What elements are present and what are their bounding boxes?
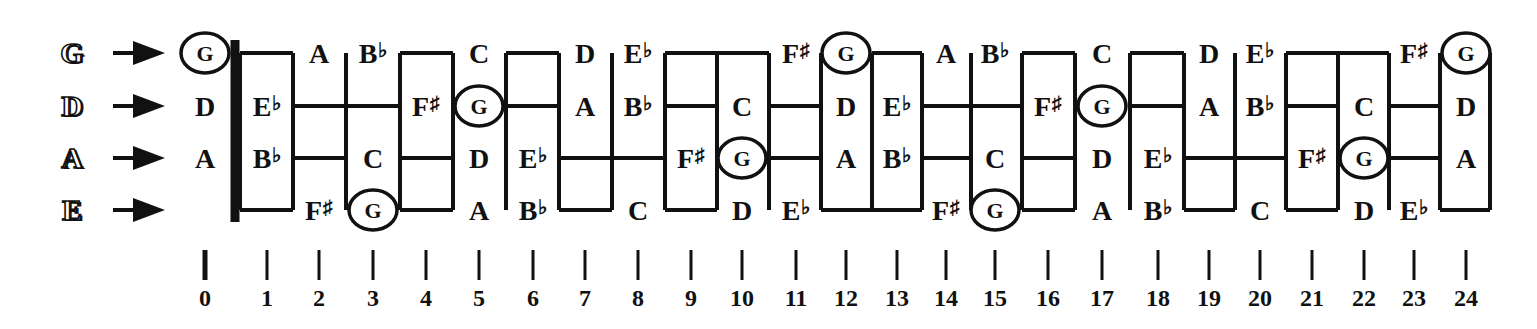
note-G-fret-17: C bbox=[1092, 40, 1112, 68]
fret-number-10: 10 bbox=[730, 286, 754, 310]
fret-number-13: 13 bbox=[885, 286, 909, 310]
note-E-fret-14: F♯ bbox=[932, 197, 960, 225]
note-E-fret-11: E♭ bbox=[782, 197, 811, 225]
note-D-fret-19: A bbox=[1199, 93, 1219, 121]
note-A-fret-10: G bbox=[733, 148, 750, 170]
fret-number-9: 9 bbox=[685, 286, 697, 310]
fret-number-3: 3 bbox=[367, 286, 379, 310]
accidental-symbol: ♭ bbox=[801, 196, 810, 218]
accidental-symbol: ♯ bbox=[323, 196, 333, 218]
note-E-fret-8: C bbox=[628, 197, 648, 225]
right-arrow-icon bbox=[133, 146, 165, 170]
note-A-fret-9: F♯ bbox=[677, 145, 705, 173]
note-D-fret-4: F♯ bbox=[412, 93, 440, 121]
note-E-fret-17: A bbox=[1092, 197, 1112, 225]
accidental-symbol: ♯ bbox=[1418, 39, 1428, 61]
note-E-fret-18: B♭ bbox=[1144, 197, 1173, 225]
note-A-fret-21: F♯ bbox=[1298, 145, 1326, 173]
accidental-symbol: ♭ bbox=[1265, 39, 1274, 61]
note-A-fret-0: A bbox=[195, 145, 215, 173]
note-G-fret-3: B♭ bbox=[359, 40, 388, 68]
note-A-fret-5: D bbox=[469, 145, 489, 173]
accidental-symbol: ♭ bbox=[538, 144, 547, 166]
note-D-fret-1: E♭ bbox=[253, 93, 282, 121]
string-name-D: D bbox=[61, 91, 83, 121]
fret-number-11: 11 bbox=[785, 286, 808, 310]
accidental-symbol: ♭ bbox=[643, 39, 652, 61]
fret-number-6: 6 bbox=[527, 286, 539, 310]
note-G-fret-0: G bbox=[196, 43, 213, 65]
accidental-symbol: ♭ bbox=[272, 92, 281, 114]
right-arrow-icon bbox=[133, 94, 165, 118]
accidental-symbol: ♭ bbox=[643, 92, 652, 114]
accidental-symbol: ♭ bbox=[1265, 92, 1274, 114]
fret-number-1: 1 bbox=[261, 286, 273, 310]
fret-number-24: 24 bbox=[1454, 286, 1478, 310]
note-G-fret-23: F♯ bbox=[1400, 40, 1428, 68]
note-D-fret-7: A bbox=[575, 93, 595, 121]
accidental-symbol: ♯ bbox=[800, 39, 810, 61]
note-G-fret-19: D bbox=[1199, 40, 1219, 68]
note-D-fret-16: F♯ bbox=[1034, 93, 1062, 121]
note-D-fret-13: E♭ bbox=[883, 93, 912, 121]
string-name-E: E bbox=[62, 195, 82, 225]
note-D-fret-12: D bbox=[836, 93, 856, 121]
fret-number-22: 22 bbox=[1352, 286, 1376, 310]
note-A-fret-22: G bbox=[1355, 148, 1372, 170]
note-G-fret-8: E♭ bbox=[624, 40, 653, 68]
accidental-symbol: ♯ bbox=[695, 144, 705, 166]
note-A-fret-13: B♭ bbox=[883, 145, 912, 173]
fret-number-4: 4 bbox=[420, 286, 432, 310]
note-E-fret-2: F♯ bbox=[305, 197, 333, 225]
accidental-symbol: ♭ bbox=[902, 92, 911, 114]
fret-number-12: 12 bbox=[834, 286, 858, 310]
fret-number-2: 2 bbox=[313, 286, 325, 310]
note-A-fret-6: E♭ bbox=[519, 145, 548, 173]
note-D-fret-5: G bbox=[470, 96, 487, 118]
note-E-fret-15: G bbox=[986, 200, 1003, 222]
note-E-fret-5: A bbox=[469, 197, 489, 225]
note-E-fret-20: C bbox=[1250, 197, 1270, 225]
note-D-fret-10: C bbox=[732, 93, 752, 121]
fret-number-8: 8 bbox=[632, 286, 644, 310]
note-E-fret-3: G bbox=[364, 200, 381, 222]
fret-number-20: 20 bbox=[1248, 286, 1272, 310]
note-G-fret-7: D bbox=[575, 40, 595, 68]
fret-number-17: 17 bbox=[1090, 286, 1114, 310]
accidental-symbol: ♯ bbox=[1052, 92, 1062, 114]
fret-number-0: 0 bbox=[199, 286, 211, 310]
note-E-fret-22: D bbox=[1354, 197, 1374, 225]
fret-number-14: 14 bbox=[934, 286, 958, 310]
fret-number-18: 18 bbox=[1146, 286, 1170, 310]
note-G-fret-15: B♭ bbox=[981, 40, 1010, 68]
note-A-fret-17: D bbox=[1092, 145, 1112, 173]
right-arrow-icon bbox=[133, 41, 165, 65]
accidental-symbol: ♭ bbox=[538, 196, 547, 218]
fret-number-15: 15 bbox=[983, 286, 1007, 310]
string-name-A: A bbox=[61, 143, 83, 173]
note-A-fret-15: C bbox=[985, 145, 1005, 173]
fret-ticks bbox=[205, 250, 1466, 280]
accidental-symbol: ♭ bbox=[1163, 196, 1172, 218]
right-arrow-icon bbox=[133, 198, 165, 222]
accidental-symbol: ♯ bbox=[430, 92, 440, 114]
fret-number-19: 19 bbox=[1197, 286, 1221, 310]
note-G-fret-2: A bbox=[309, 40, 329, 68]
note-A-fret-12: A bbox=[836, 145, 856, 173]
note-G-fret-12: G bbox=[837, 43, 854, 65]
fret-number-5: 5 bbox=[473, 286, 485, 310]
note-E-fret-23: E♭ bbox=[1400, 197, 1429, 225]
note-A-fret-3: C bbox=[363, 145, 383, 173]
accidental-symbol: ♯ bbox=[950, 196, 960, 218]
note-G-fret-24: G bbox=[1457, 43, 1474, 65]
note-D-fret-24: D bbox=[1456, 93, 1476, 121]
fret-number-16: 16 bbox=[1036, 286, 1060, 310]
note-E-fret-10: D bbox=[732, 197, 752, 225]
note-G-fret-5: C bbox=[469, 40, 489, 68]
note-A-fret-18: E♭ bbox=[1144, 145, 1173, 173]
note-D-fret-17: G bbox=[1093, 96, 1110, 118]
string-name-G: G bbox=[60, 38, 83, 68]
accidental-symbol: ♯ bbox=[1316, 144, 1326, 166]
note-D-fret-22: C bbox=[1354, 93, 1374, 121]
note-G-fret-14: A bbox=[936, 40, 956, 68]
